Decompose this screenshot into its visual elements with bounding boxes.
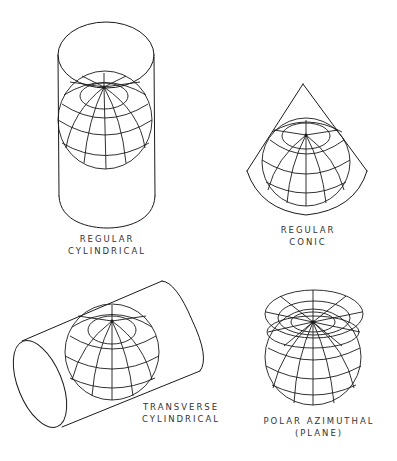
label-line: CYLINDRICAL bbox=[68, 245, 146, 257]
regular-cylindrical-figure bbox=[58, 22, 155, 228]
map-projections-diagram: REGULAR CYLINDRICAL REGULAR CONIC TRANSV… bbox=[0, 0, 397, 461]
label-line: CONIC bbox=[281, 236, 336, 248]
label-line: REGULAR bbox=[68, 233, 146, 245]
label-line: REGULAR bbox=[281, 224, 336, 236]
cylinder-right-end-curve bbox=[162, 281, 204, 371]
globe-graticule bbox=[262, 118, 350, 206]
regular-conic-figure bbox=[247, 84, 367, 215]
label-polar-azimuthal: POLAR AZIMUTHAL (PLANE) bbox=[263, 415, 374, 439]
label-line: POLAR AZIMUTHAL bbox=[263, 415, 374, 427]
projection-drawings bbox=[0, 0, 397, 461]
label-regular-cylindrical: REGULAR CYLINDRICAL bbox=[68, 233, 146, 257]
globe-graticule bbox=[65, 304, 159, 400]
cone-left-side bbox=[247, 84, 303, 171]
projection-plane bbox=[265, 290, 363, 348]
label-line: TRANSVERSE bbox=[142, 401, 220, 413]
cylinder-top-ellipse bbox=[58, 22, 154, 88]
cylinder-right-side bbox=[154, 57, 155, 196]
globe-graticule bbox=[58, 71, 152, 169]
label-regular-conic: REGULAR CONIC bbox=[281, 224, 336, 248]
label-line: CYLINDRICAL bbox=[142, 413, 220, 425]
label-transverse-cylindrical: TRANSVERSE CYLINDRICAL bbox=[142, 401, 220, 425]
polar-azimuthal-figure bbox=[265, 290, 363, 405]
cone-right-side bbox=[303, 84, 367, 171]
cylinder-top-line bbox=[22, 281, 162, 341]
cylinder-bottom-curve bbox=[59, 196, 155, 228]
cylinder-left-end-ellipse bbox=[2, 333, 77, 435]
label-line: (PLANE) bbox=[263, 427, 374, 439]
